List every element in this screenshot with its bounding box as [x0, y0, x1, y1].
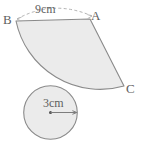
geometry-figure: B A C 9cm 3cm	[0, 0, 141, 141]
vertex-label-b: B	[3, 13, 12, 26]
vertex-label-c: C	[126, 82, 135, 95]
circle-radius-label: 3cm	[43, 97, 64, 109]
chord-length-label: 9cm	[35, 3, 56, 15]
shaded-sector-shape	[16, 19, 124, 89]
figure-canvas	[0, 0, 141, 141]
vertex-label-a: A	[91, 9, 100, 22]
